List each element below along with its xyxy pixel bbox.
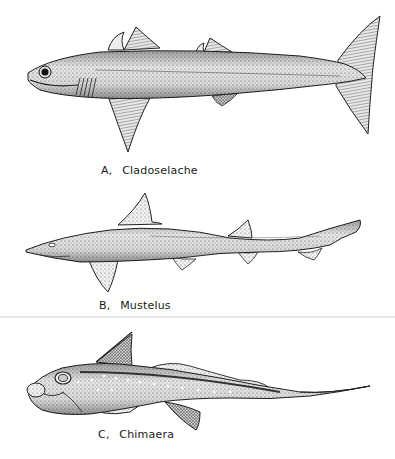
caption-mustelus: B, Mustelus <box>99 299 171 312</box>
cladoselache-drawing <box>28 16 380 152</box>
caption-name: Mustelus <box>120 299 171 312</box>
chimaera-drawing <box>27 332 370 430</box>
caption-letter: B, <box>99 299 110 312</box>
caption-letter: A, <box>101 164 112 177</box>
caption-letter: C, <box>98 428 110 441</box>
caption-name: Cladoselache <box>122 164 198 177</box>
fish-illustrations <box>0 0 395 459</box>
caption-name: Chimaera <box>119 428 174 441</box>
separator-line <box>0 316 395 318</box>
mustelus-drawing <box>26 193 361 292</box>
caption-cladoselache: A, Cladoselache <box>101 164 198 177</box>
caption-chimaera: C, Chimaera <box>98 428 174 441</box>
